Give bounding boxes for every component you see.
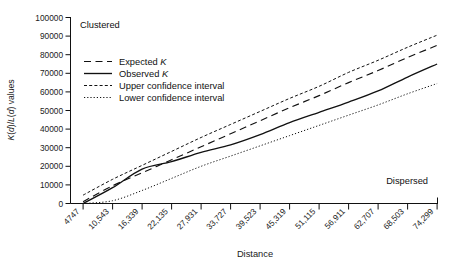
- y-axis-title: K(d)/L(d) values: [6, 79, 16, 140]
- clustered-annotation: Clustered: [80, 20, 120, 30]
- y-tick-label: 60000: [40, 87, 63, 97]
- y-tick-label: 70000: [40, 68, 63, 78]
- y-tick-label: 30000: [40, 143, 63, 153]
- y-tick-label: 0: [58, 199, 63, 209]
- y-tick-label: 90000: [40, 31, 63, 41]
- y-tick-label: 100000: [35, 13, 63, 23]
- y-tick-label: 50000: [40, 106, 63, 116]
- legend-label-observed-k: Observed K: [119, 69, 169, 79]
- x-axis-title: Distance: [237, 249, 273, 259]
- y-tick-label: 80000: [40, 50, 63, 60]
- chart-figure: 100000 90000 80000 70000 60000 50000 400…: [0, 0, 449, 263]
- legend-label-lower-confidence-interval: Lower confidence interval: [119, 93, 224, 103]
- y-tick-label: 40000: [40, 124, 63, 134]
- y-tick-label: 20000: [40, 161, 63, 171]
- k-function-plot: 100000 90000 80000 70000 60000 50000 400…: [0, 0, 449, 263]
- legend-label-upper-confidence-interval: Upper confidence interval: [119, 81, 224, 91]
- y-tick-label: 10000: [40, 180, 63, 190]
- legend-label-expected-k: Expected K: [119, 57, 167, 67]
- dispersed-annotation: Dispersed: [386, 176, 428, 186]
